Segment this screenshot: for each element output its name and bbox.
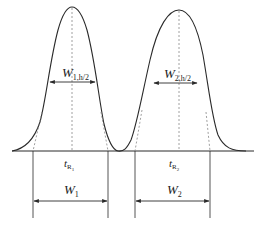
peak-2-retention-label: tR2 <box>169 157 180 172</box>
chromatogram-curve <box>12 7 246 151</box>
peak-1-right-tangent <box>101 112 108 151</box>
peak-2-half-width-label: W2,h/2 <box>164 66 191 83</box>
peak-2-right-tangent <box>206 112 210 151</box>
peak-1-base-width-label: W1 <box>64 182 79 199</box>
peak-2-left-tangent <box>135 110 142 151</box>
chromatogram-diagram: W1,h/2 W2,h/2 tR1 tR2 W1 W2 <box>0 0 256 228</box>
peak-2-base-width-label: W2 <box>167 182 182 199</box>
peak-1-retention-label: tR1 <box>64 157 75 172</box>
peak-1-half-width-label: W1,h/2 <box>62 65 89 82</box>
